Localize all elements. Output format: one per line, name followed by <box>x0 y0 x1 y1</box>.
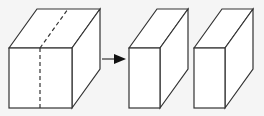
result-block-right-front-face <box>194 48 225 108</box>
result-block-left-front-face <box>129 48 160 108</box>
diagram-canvas <box>0 0 264 116</box>
cube-split-diagram <box>0 0 264 116</box>
